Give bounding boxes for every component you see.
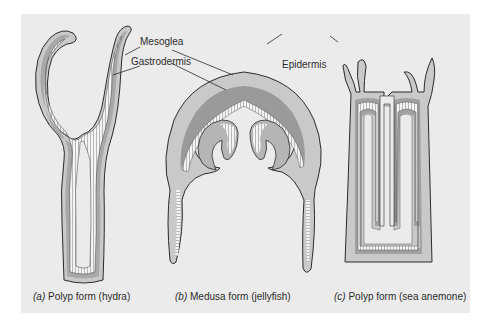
caption-c: (c) Polyp form (sea anemone) [334, 292, 466, 302]
sea-anemone-drawing [343, 58, 435, 262]
cnidarian-body-forms-diagram [0, 0, 486, 323]
caption-b-letter: (b) [175, 291, 187, 302]
caption-b: (b) Medusa form (jellyfish) [175, 292, 291, 302]
caption-a-text: Polyp form (hydra) [48, 291, 130, 302]
medusa-drawing [166, 72, 321, 272]
label-mesoglea: Mesoglea [140, 37, 183, 47]
hydra-polyp-drawing [36, 26, 132, 283]
caption-a-letter: (a) [33, 291, 45, 302]
caption-a: (a) Polyp form (hydra) [33, 292, 130, 302]
caption-b-text: Medusa form (jellyfish) [190, 291, 291, 302]
label-epidermis: Epidermis [282, 60, 326, 70]
caption-c-letter: (c) [334, 291, 346, 302]
caption-c-text: Polyp form (sea anemone) [348, 291, 466, 302]
label-gastrodermis: Gastrodermis [131, 57, 191, 67]
